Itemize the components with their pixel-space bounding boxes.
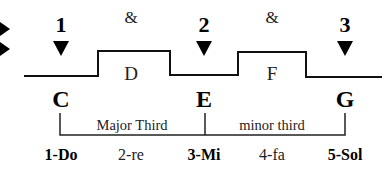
- beat-marker-icon: [196, 41, 212, 56]
- beat-marker-icon: [53, 41, 69, 56]
- solfege-1-do: 1-Do: [45, 146, 78, 164]
- chord-note-c: C: [52, 86, 69, 113]
- interval-major-third: Major Third: [96, 117, 167, 134]
- offbeat-2-label: &: [265, 8, 278, 28]
- passing-note-f: F: [267, 63, 278, 85]
- beat-3-label: 3: [340, 12, 351, 38]
- passing-note-d: D: [124, 63, 138, 85]
- solfege-4-fa: 4-fa: [259, 146, 285, 164]
- interval-minor-third: minor third: [239, 117, 305, 134]
- beat-2-label: 2: [199, 12, 210, 38]
- solfege-3-mi: 3-Mi: [188, 146, 221, 164]
- chord-note-e: E: [196, 86, 212, 113]
- solfege-2-re: 2-re: [118, 146, 144, 164]
- beat-1-label: 1: [56, 12, 67, 38]
- beat-marker-icon: [337, 41, 353, 56]
- solfege-5-sol: 5-Sol: [328, 146, 363, 164]
- chord-note-g: G: [336, 86, 355, 113]
- offbeat-1-label: &: [124, 8, 137, 28]
